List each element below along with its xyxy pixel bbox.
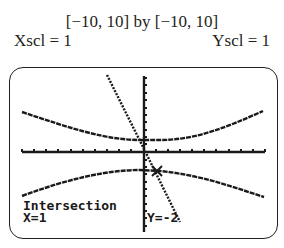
upper-curve	[22, 111, 263, 140]
x-readout: X=1	[23, 212, 46, 224]
y-readout: Y=-2	[147, 212, 178, 224]
